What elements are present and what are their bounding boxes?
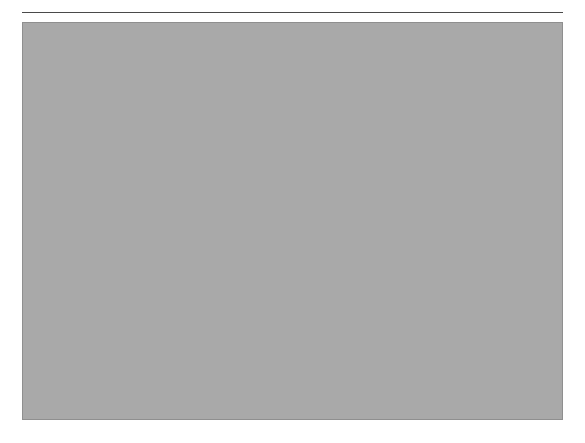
top-horizontal-rule bbox=[22, 12, 563, 13]
diagram-panel bbox=[22, 22, 563, 420]
edge-layer bbox=[23, 23, 564, 421]
diagram-page bbox=[0, 0, 585, 443]
